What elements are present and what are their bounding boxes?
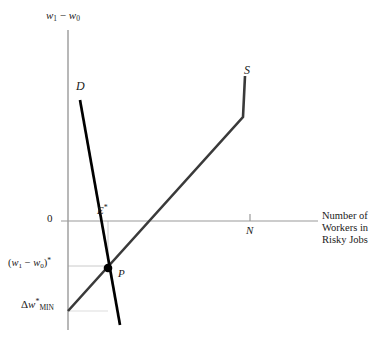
x-axis-label-line-3: Risky Jobs — [322, 234, 381, 246]
minimum-wage-differential-label: Δw*MIN — [21, 297, 54, 312]
supply-curve — [68, 76, 245, 311]
diagram-svg — [0, 0, 381, 348]
x-axis-label-line-1: Number of — [322, 210, 381, 222]
supply-curve-label: S — [244, 64, 250, 78]
figure-canvas: w1 − w0 D S 0 E* N Number of Workers in … — [0, 0, 381, 348]
y-axis-label: w1 − w0 — [46, 9, 80, 24]
e-star-superscript: * — [104, 203, 108, 212]
equilibrium-wage-differential-label: (w1 − w0)* — [8, 257, 51, 271]
demand-curve-label: D — [76, 80, 85, 94]
total-workers-label: N — [246, 224, 253, 237]
equilibrium-point-label: P — [118, 267, 125, 280]
x-axis-label: Number of Workers in Risky Jobs — [322, 210, 381, 246]
e-symbol: E — [97, 204, 104, 216]
origin-label: 0 — [47, 212, 53, 225]
equilibrium-employment-label: E* — [97, 203, 108, 216]
x-axis-label-line-2: Workers in — [322, 222, 381, 234]
equilibrium-point-marker — [104, 264, 113, 273]
